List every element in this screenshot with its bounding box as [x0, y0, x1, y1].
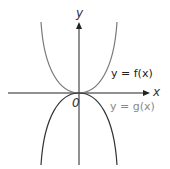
y-axis-arrow-icon: [76, 22, 82, 29]
x-axis-label: x: [153, 85, 160, 99]
y-axis-label: y: [76, 6, 83, 20]
g-label: y = g(x): [110, 100, 155, 113]
f-label: y = f(x): [111, 67, 153, 80]
graph: [0, 0, 170, 169]
origin-label: 0: [72, 96, 80, 110]
x-axis-arrow-icon: [143, 90, 150, 96]
